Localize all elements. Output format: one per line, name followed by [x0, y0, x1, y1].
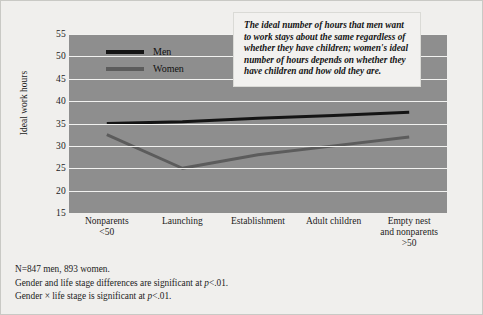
y-tick-label: 20: [56, 186, 66, 196]
y-tick-label: 30: [56, 141, 66, 151]
legend-swatch-men: [106, 50, 144, 54]
y-tick-label: 55: [56, 29, 66, 39]
y-axis-title: Ideal work hours: [19, 48, 29, 158]
y-tick-label: 40: [56, 96, 66, 106]
footnotes: N=847 men, 893 women.Gender and life sta…: [15, 263, 445, 304]
footnote-line: Gender × life stage is significant at p<…: [15, 290, 445, 304]
gridline: [69, 146, 447, 147]
chart-legend: MenWomen: [106, 43, 221, 77]
x-tick-label: Adult children: [296, 216, 372, 264]
y-tick-label: 35: [56, 119, 66, 129]
gridline: [69, 101, 447, 102]
x-axis-labels: Nonparents <50LaunchingEstablishmentAdul…: [69, 216, 447, 264]
series-line-women: [107, 135, 409, 169]
y-tick-label: 25: [56, 163, 66, 173]
legend-item-women: Women: [106, 60, 221, 77]
footnote-line: N=847 men, 893 women.: [15, 263, 445, 277]
x-tick-label: Nonparents <50: [69, 216, 145, 264]
y-axis-ticks: 555045403530252015: [41, 34, 66, 213]
legend-label: Women: [153, 63, 184, 74]
y-tick-label: 45: [56, 74, 66, 84]
callout-annotation: The ideal number of hours that men want …: [233, 12, 421, 87]
legend-swatch-women: [106, 67, 144, 71]
gridline: [69, 191, 447, 192]
gridline: [69, 168, 447, 169]
legend-item-men: Men: [106, 43, 221, 60]
y-tick-label: 15: [56, 208, 66, 218]
y-tick-label: 50: [56, 51, 66, 61]
x-tick-label: Launching: [145, 216, 221, 264]
x-tick-label: Establishment: [220, 216, 296, 264]
legend-label: Men: [153, 46, 171, 57]
footnote-line: Gender and life stage differences are si…: [15, 277, 445, 291]
chart-figure: Ideal work hours 555045403530252015 MenW…: [0, 0, 483, 315]
series-line-men: [107, 112, 409, 123]
x-tick-label: Empty nest and nonparents >50: [371, 216, 447, 264]
gridline: [69, 124, 447, 125]
